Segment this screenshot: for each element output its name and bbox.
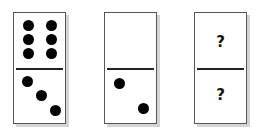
domino-1: [13, 12, 66, 124]
pip: [138, 103, 149, 114]
domino-3-top-half: ?: [195, 13, 246, 68]
pip: [114, 78, 125, 89]
domino-3: ? ?: [194, 12, 247, 124]
pip: [23, 34, 34, 45]
pip: [36, 90, 47, 101]
pip: [23, 20, 34, 31]
pip: [46, 34, 57, 45]
pip: [22, 76, 33, 87]
domino-2: [104, 12, 157, 124]
pip: [46, 48, 57, 59]
domino-2-bottom-half: [105, 70, 156, 125]
pip: [23, 48, 34, 59]
domino-1-bottom-half: [14, 70, 65, 125]
domino-3-bottom-half: ?: [195, 70, 246, 125]
domino-1-top-half: [14, 13, 65, 68]
pip: [50, 105, 61, 116]
question-mark: ?: [195, 86, 246, 104]
question-mark: ?: [195, 33, 246, 51]
pip: [46, 20, 57, 31]
domino-2-top-half: [105, 13, 156, 68]
